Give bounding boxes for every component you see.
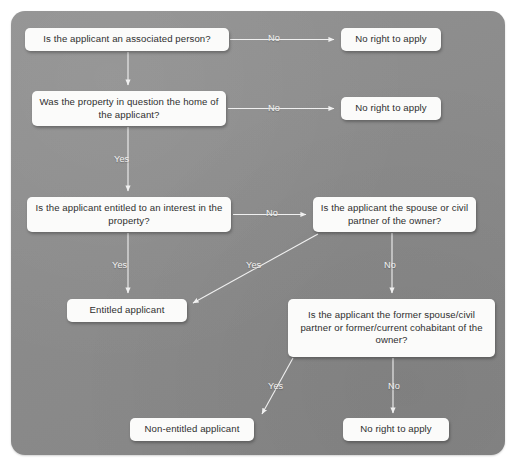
node-label: No right to apply: [348, 33, 434, 46]
edge-label-cohabitant-yes: Yes: [268, 381, 283, 392]
node-label: No right to apply: [348, 102, 434, 115]
node-label: Is the applicant an associated person?: [32, 33, 222, 46]
node-label: Entitled applicant: [74, 304, 180, 317]
edge-label-home-yes: Yes: [114, 154, 129, 165]
node-q-associated-person[interactable]: Is the applicant an associated person?: [25, 28, 229, 51]
edge-label-home-no: No: [268, 103, 280, 114]
node-label: Non-entitled applicant: [137, 423, 247, 436]
edge-label-associated-no: No: [268, 33, 280, 44]
node-outcome-non-entitled-applicant[interactable]: Non-entitled applicant: [130, 418, 254, 441]
flowchart-canvas: Is the applicant an associated person? N…: [0, 0, 521, 471]
edge-label-interest-no: No: [266, 208, 278, 219]
edge-label-spouse-yes: Yes: [246, 260, 261, 271]
edge-label-cohabitant-no: No: [388, 381, 400, 392]
node-outcome-no-right-1[interactable]: No right to apply: [341, 28, 441, 51]
node-label: Is the applicant the spouse or civil par…: [320, 202, 469, 227]
node-label: Was the property in question the home of…: [39, 96, 219, 121]
node-outcome-entitled-applicant[interactable]: Entitled applicant: [67, 299, 187, 322]
node-outcome-no-right-3[interactable]: No right to apply: [343, 418, 449, 441]
edge-label-spouse-no: No: [384, 260, 396, 271]
edge-label-interest-yes: Yes: [112, 260, 127, 271]
node-label: No right to apply: [350, 423, 442, 436]
node-q-former-spouse-cohabitant[interactable]: Is the applicant the former spouse/civil…: [288, 299, 495, 357]
flowchart-panel: [11, 11, 505, 455]
node-label: Is the applicant the former spouse/civil…: [295, 309, 488, 347]
node-q-spouse-civil-partner[interactable]: Is the applicant the spouse or civil par…: [313, 197, 476, 232]
node-outcome-no-right-2[interactable]: No right to apply: [341, 97, 441, 120]
node-q-entitled-interest[interactable]: Is the applicant entitled to an interest…: [27, 197, 231, 232]
node-label: Is the applicant entitled to an interest…: [34, 202, 224, 227]
node-q-home-of-applicant[interactable]: Was the property in question the home of…: [32, 91, 226, 126]
